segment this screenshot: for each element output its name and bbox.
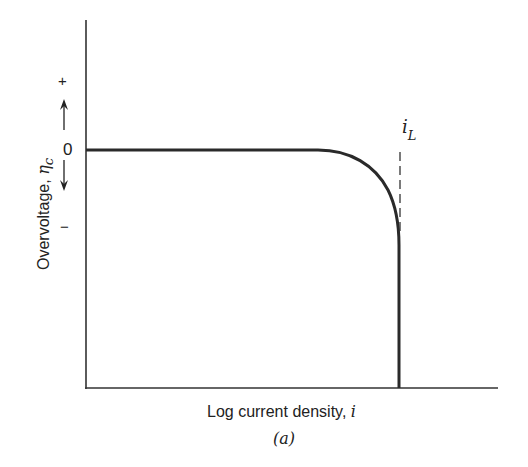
polarization-curve bbox=[86, 150, 399, 388]
chart-canvas bbox=[0, 0, 528, 467]
up-arrow-icon bbox=[60, 99, 68, 130]
y-axis-label: Overvoltage, ηc bbox=[34, 158, 56, 270]
eta-symbol: ηc bbox=[34, 158, 53, 175]
figure-caption: (a) bbox=[273, 429, 295, 448]
x-axis-label-text: Log current density, bbox=[207, 403, 351, 420]
down-arrow-icon bbox=[60, 160, 68, 191]
limiting-current-label: iL bbox=[402, 116, 416, 141]
polarization-figure: Overvoltage, ηc + 0 − iL Log current den… bbox=[0, 0, 528, 467]
positive-marker: + bbox=[58, 72, 67, 89]
negative-marker: − bbox=[60, 218, 69, 235]
x-axis-label: Log current density, i bbox=[207, 402, 356, 421]
current-symbol: i bbox=[351, 402, 356, 421]
y-axis-label-text: Overvoltage, bbox=[35, 175, 52, 270]
y-tick-zero: 0 bbox=[63, 140, 72, 160]
